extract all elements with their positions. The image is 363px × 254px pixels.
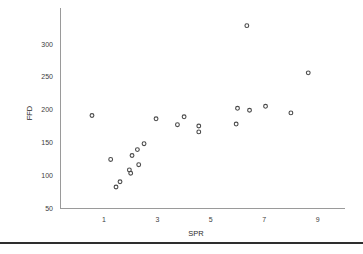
data-point <box>176 123 180 127</box>
data-point <box>90 114 94 118</box>
x-tick-label: 7 <box>262 216 266 223</box>
y-tick-label-group: 50100150200250300 <box>41 41 53 212</box>
data-point <box>248 108 252 112</box>
y-tick-label: 100 <box>41 172 53 179</box>
x-tick-label: 3 <box>155 216 159 223</box>
y-axis-title: FFD <box>25 105 34 120</box>
data-point <box>142 142 146 146</box>
data-point <box>197 130 201 134</box>
chart-canvas: 50100150200250300 13579 FFD SPR <box>0 0 363 254</box>
axis-spines <box>61 8 346 209</box>
data-point <box>234 122 238 126</box>
x-tick-label-group: 13579 <box>102 216 320 223</box>
data-point <box>264 104 268 108</box>
data-point <box>245 24 249 28</box>
data-point <box>137 163 141 167</box>
data-point <box>306 71 310 75</box>
x-tick-label: 9 <box>316 216 320 223</box>
data-point <box>236 106 240 110</box>
scatter-plot-figure: 50100150200250300 13579 FFD SPR <box>0 0 363 254</box>
data-point <box>118 180 122 184</box>
data-point <box>135 148 139 152</box>
y-tick-label: 250 <box>41 73 53 80</box>
x-axis-title: SPR <box>188 229 204 238</box>
data-point <box>129 171 133 175</box>
data-point <box>114 185 118 189</box>
footer-divider <box>0 242 363 244</box>
data-point <box>130 154 134 158</box>
y-tick-label: 200 <box>41 106 53 113</box>
x-tick-label: 5 <box>209 216 213 223</box>
x-tick-label: 1 <box>102 216 106 223</box>
data-point <box>197 124 201 128</box>
y-tick-label: 50 <box>45 205 53 212</box>
y-tick-label: 150 <box>41 139 53 146</box>
data-point <box>154 117 158 121</box>
data-point-group <box>90 24 310 189</box>
y-tick-label: 300 <box>41 41 53 48</box>
data-point <box>182 115 186 119</box>
data-point <box>289 111 293 115</box>
data-point <box>109 158 113 162</box>
